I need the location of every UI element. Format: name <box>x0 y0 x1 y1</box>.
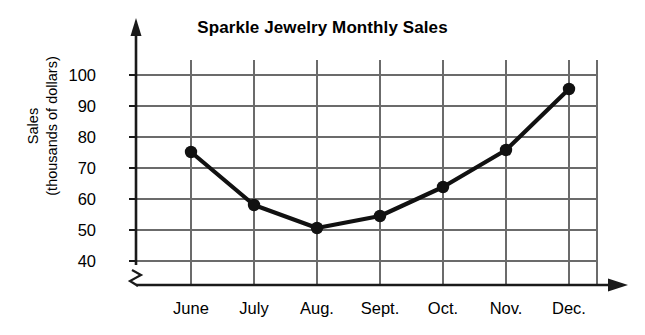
y-axis-break-icon <box>130 270 141 286</box>
data-point-oct <box>437 181 449 193</box>
data-point-nov <box>500 144 512 156</box>
chart-figure: Sparkle Jewelry Monthly Sales Sales (tho… <box>0 0 645 335</box>
data-point-dec <box>563 83 575 95</box>
data-point-aug <box>311 222 323 234</box>
horizontal-gridlines <box>136 75 597 261</box>
data-point-june <box>185 146 197 158</box>
x-axis-arrow <box>608 279 628 292</box>
y-axis-arrow <box>131 18 142 36</box>
vertical-gridlines <box>191 60 569 285</box>
data-point-sept <box>374 210 386 222</box>
chart-plot-area <box>0 0 645 335</box>
data-point-july <box>248 199 260 211</box>
